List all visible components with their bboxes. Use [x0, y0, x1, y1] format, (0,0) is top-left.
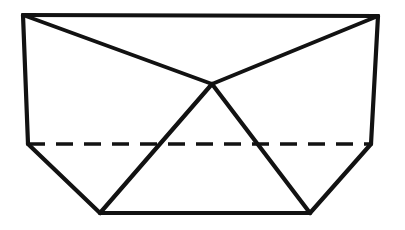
figure-container [0, 0, 405, 230]
face-group [23, 15, 378, 213]
top-edge [23, 15, 378, 16]
geometric-figure [0, 0, 405, 230]
